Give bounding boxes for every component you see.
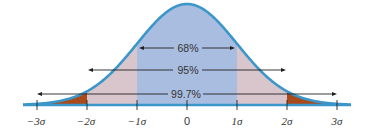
label-95-percent: 95%	[177, 64, 198, 76]
tick-label-plus-3-sigma: 3σ	[331, 115, 344, 127]
label-99-7-percent: 99.7%	[171, 88, 201, 100]
tick-label-plus-2-sigma: 2σ	[282, 115, 294, 127]
tick-label-minus-3-sigma: −3σ	[27, 115, 46, 127]
label-68-percent: 68%	[177, 42, 198, 54]
tick-label-zero: 0	[184, 115, 190, 127]
normal-distribution-chart: 68% 95% 99.7% −3σ −2σ −1σ 0 1σ 2σ 3σ	[0, 0, 370, 133]
tick-label-minus-2-sigma: −2σ	[77, 115, 96, 127]
tick-label-plus-1-sigma: 1σ	[232, 115, 244, 127]
tick-label-minus-1-sigma: −1σ	[128, 115, 147, 127]
